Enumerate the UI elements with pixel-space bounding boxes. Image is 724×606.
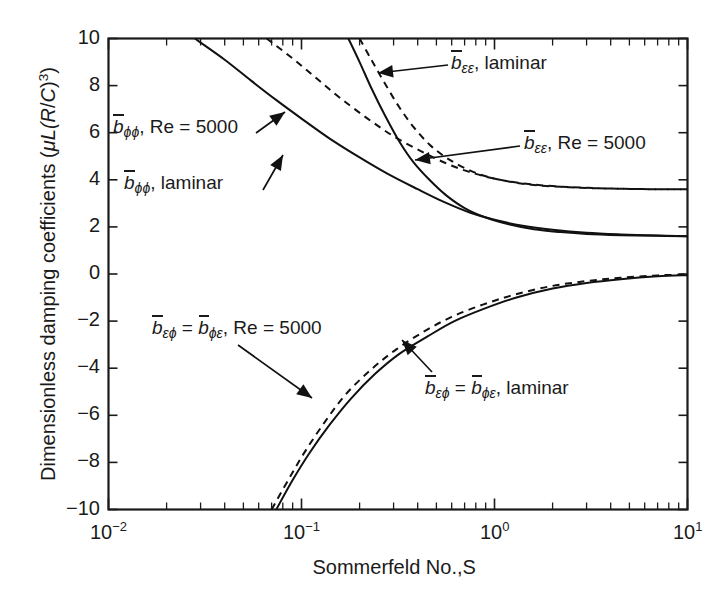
y-axis-title: Dimensionless damping coefficients (μL(R… xyxy=(36,67,60,481)
x-tick-label: 10−1 xyxy=(283,519,320,544)
y-title-C: C xyxy=(37,88,59,102)
y-title-close: ) xyxy=(37,81,59,88)
b-symbol-1: b xyxy=(425,378,436,397)
y-title-prefix: Dimensionless damping coefficients ( xyxy=(37,151,59,481)
annotation-b-phiphi-laminar: bϕϕ, laminar xyxy=(124,173,223,195)
y-title-end: ) xyxy=(37,67,59,74)
b-symbol: b xyxy=(124,173,135,192)
plot-frame xyxy=(109,39,688,510)
annotation-b-cross-laminar: bεϕ = bϕε, laminar xyxy=(425,378,569,400)
b-symbol-2: b xyxy=(471,378,482,397)
annotation-b-epseps-re5000: bεε, Re = 5000 xyxy=(524,133,646,155)
annotation-b-epseps-laminar: bεε, laminar xyxy=(451,53,547,75)
b-rest: , laminar xyxy=(150,172,223,193)
b-symbol: b xyxy=(524,133,535,152)
b-rest: , Re = 5000 xyxy=(139,116,238,137)
b-symbol-2: b xyxy=(198,318,209,337)
b-subscript-1: εϕ xyxy=(163,325,177,341)
b-subscript-2: ϕε xyxy=(482,385,496,401)
leader-b-epseps-re-head xyxy=(415,152,431,164)
b-symbol-1: b xyxy=(152,318,163,337)
annotation-b-phiphi-re5000: bϕϕ, Re = 5000 xyxy=(113,117,238,139)
b-rest: , laminar xyxy=(474,52,547,73)
b-subscript: ϕϕ xyxy=(135,180,151,196)
b-subscript-1: εϕ xyxy=(436,385,450,401)
equals-sign: = xyxy=(450,377,472,398)
chart-canvas xyxy=(0,0,724,606)
y-title-R: R xyxy=(37,108,59,122)
y-title-exponent: 3 xyxy=(36,74,51,82)
b-rest: , Re = 5000 xyxy=(223,317,322,338)
b-subscript: εε xyxy=(462,60,474,76)
leader-b-epseps-re-line xyxy=(415,146,520,160)
y-title-mu: μ xyxy=(37,140,59,151)
annotation-leaders xyxy=(238,65,520,398)
y-tick-label: −10 xyxy=(40,497,100,520)
curves-group xyxy=(195,39,688,510)
leader-b-cross-re-head xyxy=(296,384,312,398)
y-tick-label: 10 xyxy=(40,26,100,49)
b-rest: , laminar xyxy=(496,377,569,398)
b-subscript: ϕϕ xyxy=(124,124,140,140)
y-title-slash: / xyxy=(37,102,59,108)
b-symbol: b xyxy=(113,117,124,136)
y-title-L: L( xyxy=(37,122,59,140)
b-subscript: εε xyxy=(535,140,547,156)
b-subscript-2: ϕε xyxy=(209,325,223,341)
x-tick-label: 10−2 xyxy=(90,519,127,544)
x-tick-label: 101 xyxy=(673,519,702,544)
x-axis-title: Sommerfeld No.,S xyxy=(313,556,476,579)
equals-sign: = xyxy=(177,317,199,338)
figure-root: 1086420−2−4−6−8−10 10−210−1100101 Sommer… xyxy=(0,0,724,606)
leader-b-phiphi-re-head xyxy=(269,112,285,126)
annotation-b-cross-re5000: bεϕ = bϕε, Re = 5000 xyxy=(152,318,322,340)
b-rest: , Re = 5000 xyxy=(547,132,646,153)
leader-b-phiphi-laminar-head xyxy=(270,155,283,171)
x-tick-label: 100 xyxy=(480,519,509,544)
axes-group xyxy=(109,39,688,510)
b-symbol: b xyxy=(451,53,462,72)
